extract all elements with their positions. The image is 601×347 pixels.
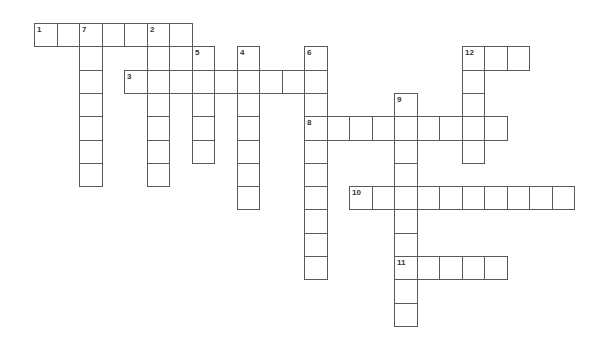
crossword-cell[interactable] [417,186,440,210]
crossword-cell[interactable] [484,116,508,141]
crossword-cell[interactable] [237,140,260,164]
crossword-cell[interactable] [552,186,575,210]
crossword-cell[interactable]: 9 [394,93,418,117]
crossword-cell[interactable] [304,209,328,234]
crossword-cell[interactable] [237,116,260,141]
crossword-cell[interactable] [394,233,418,257]
crossword-cell[interactable] [529,186,553,210]
crossword-cell[interactable] [192,93,215,117]
crossword-cell[interactable] [462,140,485,164]
crossword-cell[interactable] [192,70,215,94]
clue-number-label: 2 [150,25,154,34]
clue-number-label: 4 [240,48,244,57]
crossword-cell[interactable] [259,70,283,94]
clue-number-label: 10 [352,188,361,197]
crossword-cell[interactable] [282,70,305,94]
crossword-cell[interactable] [462,116,485,141]
crossword-cell[interactable] [349,116,373,141]
crossword-cell[interactable] [147,46,170,71]
crossword-cell[interactable] [507,46,530,71]
clue-number-label: 9 [397,95,401,104]
crossword-cell[interactable] [169,70,193,94]
crossword-cell[interactable] [462,93,485,117]
crossword-cell[interactable]: 6 [304,46,328,71]
crossword-cell[interactable] [304,70,328,94]
crossword-cell[interactable]: 4 [237,46,260,71]
crossword-cell[interactable] [507,186,530,210]
crossword-cell[interactable] [192,140,215,164]
crossword-cell[interactable] [462,70,485,94]
crossword-cell[interactable] [304,163,328,187]
crossword-cell[interactable]: 10 [349,186,373,210]
crossword-cell[interactable] [79,116,103,141]
crossword-cell[interactable] [372,186,395,210]
clue-number-label: 11 [397,258,405,267]
crossword-cell[interactable] [169,23,193,47]
crossword-cell[interactable] [394,163,418,187]
crossword-cell[interactable] [484,256,508,280]
clue-number-label: 12 [465,48,474,57]
crossword-cell[interactable] [79,70,103,94]
crossword-cell[interactable] [439,186,463,210]
crossword-cell[interactable]: 1 [34,23,58,47]
crossword-cell[interactable] [147,140,170,164]
crossword-cell[interactable]: 12 [462,46,485,71]
crossword-cell[interactable] [394,186,418,210]
crossword-cell[interactable] [327,116,350,141]
crossword-cell[interactable] [417,256,440,280]
clue-number-label: 7 [82,25,86,34]
crossword-cell[interactable] [304,256,328,280]
crossword-cell[interactable] [147,70,170,94]
crossword-cell[interactable] [439,116,463,141]
crossword-cell[interactable] [147,163,170,187]
crossword-cell[interactable] [237,70,260,94]
crossword-cell[interactable] [394,140,418,164]
crossword-cell[interactable]: 5 [192,46,215,71]
crossword-cell[interactable] [462,186,485,210]
crossword-cell[interactable] [147,116,170,141]
crossword-cell[interactable] [372,116,395,141]
crossword-cell[interactable]: 3 [124,70,148,94]
crossword-cell[interactable] [214,70,238,94]
crossword-cell[interactable] [417,116,440,141]
crossword-cell[interactable] [79,93,103,117]
crossword-cell[interactable] [484,46,508,71]
crossword-cell[interactable] [192,116,215,141]
crossword-cell[interactable] [79,46,103,71]
crossword-cell[interactable]: 2 [147,23,170,47]
crossword-cell[interactable] [237,163,260,187]
crossword-cell[interactable] [102,23,125,47]
clue-number-label: 6 [307,48,311,57]
clue-number-label: 1 [37,25,41,34]
crossword-cell[interactable] [304,93,328,117]
crossword-cell[interactable] [439,256,463,280]
crossword-cell[interactable] [79,140,103,164]
crossword-cell[interactable] [79,163,103,187]
crossword-grid: 172345689111012 [0,0,601,347]
crossword-cell[interactable]: 11 [394,256,418,280]
crossword-cell[interactable] [394,116,418,141]
clue-number-label: 8 [307,118,311,127]
crossword-cell[interactable] [304,140,328,164]
crossword-cell[interactable] [394,279,418,304]
clue-number-label: 3 [127,72,131,81]
crossword-cell[interactable]: 8 [304,116,328,141]
crossword-cell[interactable] [304,186,328,210]
crossword-cell[interactable] [237,93,260,117]
crossword-cell[interactable] [484,186,508,210]
crossword-cell[interactable]: 7 [79,23,103,47]
clue-number-label: 5 [195,48,199,57]
crossword-cell[interactable] [394,209,418,234]
crossword-cell[interactable] [394,303,418,327]
crossword-cell[interactable] [124,23,148,47]
crossword-cell[interactable] [237,186,260,210]
crossword-cell[interactable] [304,233,328,257]
crossword-cell[interactable] [147,93,170,117]
crossword-cell[interactable] [57,23,80,47]
crossword-cell[interactable] [462,256,485,280]
